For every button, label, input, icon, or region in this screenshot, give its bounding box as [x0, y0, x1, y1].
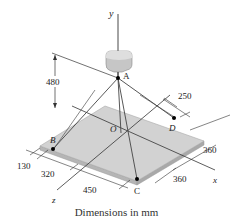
- point-C-label: C: [134, 186, 140, 196]
- z-axis-label: z: [51, 195, 56, 205]
- figure: y A O B D C x z 480 250 360 360 130 320 …: [0, 0, 233, 220]
- x-axis-label: x: [212, 175, 217, 185]
- dim-360-lower: 360: [173, 174, 187, 184]
- point-A-label: A: [123, 71, 130, 81]
- point-D-label: D: [168, 123, 176, 133]
- point-C: [135, 177, 139, 181]
- point-A: [116, 76, 120, 80]
- point-B-label: B: [50, 135, 56, 145]
- dim-480: 480: [46, 77, 60, 87]
- y-axis-label: y: [108, 8, 114, 19]
- dim-320: 320: [41, 169, 55, 179]
- point-O-label: O: [110, 124, 117, 134]
- dim-450: 450: [83, 185, 97, 195]
- diagram-canvas: y A O B D C x z 480 250 360 360 130 320 …: [0, 0, 233, 220]
- dim-130: 130: [17, 161, 31, 171]
- dim-250: 250: [178, 91, 192, 101]
- caption: Dimensions in mm: [0, 206, 233, 218]
- point-D: [172, 116, 176, 120]
- dim-360-upper: 360: [203, 145, 217, 155]
- point-B: [51, 147, 55, 151]
